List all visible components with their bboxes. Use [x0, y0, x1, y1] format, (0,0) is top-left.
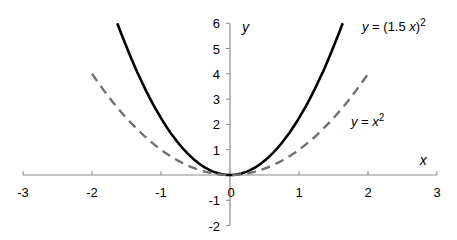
- y-tick-label: 4: [213, 67, 220, 82]
- y-tick-label: 5: [213, 42, 220, 57]
- y-tick-label: -2: [208, 219, 220, 234]
- y-tick-label: 1: [213, 143, 220, 158]
- x-tick-label: -1: [155, 185, 167, 200]
- x-axis-title: x: [419, 152, 428, 168]
- y-axis-title: y: [241, 19, 250, 35]
- x-tick-label: 3: [433, 185, 440, 200]
- y-tick-label: 6: [213, 16, 220, 31]
- x-tick-label: 0: [227, 185, 234, 200]
- label-1.5x-squared: y = (1.5 x)2: [361, 17, 426, 34]
- y-tick-label: -1: [208, 193, 220, 208]
- label-x-squared: y = x2: [350, 112, 385, 129]
- parabola-chart: -3-2-10123-2-1123456yxy = (1.5 x)2y = x2: [0, 0, 457, 240]
- y-tick-label: 3: [213, 92, 220, 107]
- x-tick-label: 2: [364, 185, 371, 200]
- x-tick-label: -3: [17, 185, 29, 200]
- x-tick-label: 1: [295, 185, 302, 200]
- y-tick-label: 2: [213, 117, 220, 132]
- x-tick-label: -2: [86, 185, 98, 200]
